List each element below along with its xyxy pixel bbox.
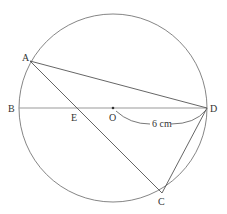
center-point-o <box>112 107 115 110</box>
segment-ad <box>30 61 207 108</box>
label-d: D <box>210 103 217 114</box>
label-b: B <box>8 103 15 114</box>
label-e: E <box>71 112 77 123</box>
circle-geometry-diagram: A B C D E O 6 cm <box>0 0 227 214</box>
radius-brace-right <box>171 110 206 124</box>
label-o: O <box>109 112 116 123</box>
radius-brace-left <box>116 111 150 124</box>
radius-label: 6 cm <box>152 118 172 129</box>
label-c: C <box>158 196 165 207</box>
label-a: A <box>22 52 30 63</box>
segment-ac <box>30 61 162 193</box>
